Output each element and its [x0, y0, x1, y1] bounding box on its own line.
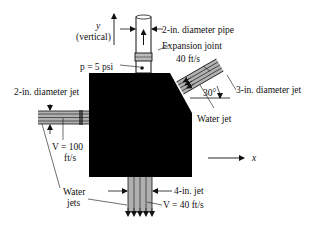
- pipe-label: 2-in. diameter pipe: [162, 25, 234, 35]
- expansion-joint-label: Expansion joint: [162, 41, 222, 51]
- jet-left-diameter-label: 2-in. diameter jet: [14, 87, 80, 97]
- jet-bottom-speed-label: V = 40 ft/s: [163, 200, 204, 210]
- jet-bottom-diameter-label: 4-in. jet: [174, 186, 204, 196]
- y-axis-note: (vertical): [76, 32, 111, 43]
- water-jet-right-label: Water jet: [197, 114, 232, 124]
- water-jets-line1: Water: [63, 187, 86, 197]
- diagram-canvas: y (vertical) 2-in. diameter pipe Expansi…: [0, 0, 323, 228]
- y-axis-label: y: [95, 21, 101, 31]
- vertical-pipe: [120, 15, 163, 73]
- x-axis-label: x: [251, 153, 257, 163]
- jet-left-speed-line1: V = 100: [52, 142, 83, 152]
- bottom-jet: [88, 177, 172, 216]
- water-jets-line2: jets: [66, 198, 80, 208]
- angle-label: 30°: [203, 88, 217, 98]
- jet-left-speed-line2: ft/s: [64, 153, 76, 163]
- jet-right-diameter-label: 3-in. diameter jet: [236, 85, 302, 95]
- jet-right-speed-label: 40 ft/s: [176, 54, 200, 64]
- block: [89, 73, 192, 177]
- pressure-label: p = 5 psi: [80, 62, 113, 72]
